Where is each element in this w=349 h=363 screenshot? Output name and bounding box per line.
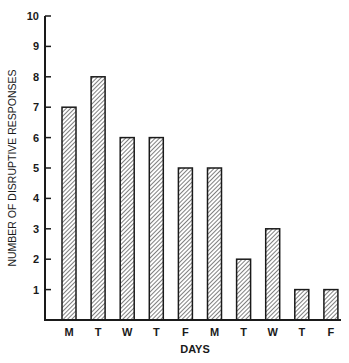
x-tick-label: W	[268, 326, 279, 338]
bar	[266, 229, 280, 320]
x-tick-label: T	[240, 326, 247, 338]
bar	[178, 168, 192, 320]
x-tick-label: T	[95, 326, 102, 338]
bar-chart: 12345678910 MTWTFMTWTF NUMBER OF DISRUPT…	[0, 0, 349, 363]
y-tick-label: 7	[33, 101, 39, 113]
y-tick-label: 3	[33, 223, 39, 235]
bar	[324, 290, 338, 320]
bar	[120, 138, 134, 320]
bar	[237, 259, 251, 320]
x-tick-label: M	[64, 326, 73, 338]
bar	[295, 290, 309, 320]
bar	[62, 107, 76, 320]
x-tick-label: W	[122, 326, 133, 338]
y-axis-title: NUMBER OF DISRUPTIVE RESPONSES	[6, 69, 18, 266]
x-tick-label: M	[210, 326, 219, 338]
x-tick-label: T	[298, 326, 305, 338]
y-tick-label: 4	[33, 192, 40, 204]
y-tick-label: 6	[33, 132, 39, 144]
x-tick-label: T	[153, 326, 160, 338]
y-tick-label: 10	[27, 10, 39, 22]
bar	[91, 77, 105, 320]
y-axis: 12345678910	[27, 10, 51, 320]
x-axis-title: DAYS	[180, 343, 210, 355]
y-tick-label: 8	[33, 71, 39, 83]
y-tick-label: 1	[33, 284, 39, 296]
y-tick-label: 2	[33, 253, 39, 265]
bars	[62, 77, 338, 320]
x-tick-label: F	[328, 326, 335, 338]
x-tick-label: F	[182, 326, 189, 338]
bar	[149, 138, 163, 320]
bar	[208, 168, 222, 320]
x-axis: MTWTFMTWTF	[44, 320, 341, 338]
y-tick-label: 9	[33, 40, 39, 52]
y-tick-label: 5	[33, 162, 39, 174]
